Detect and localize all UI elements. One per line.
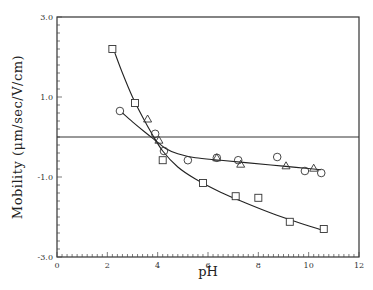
y-tick-label: 1.0 xyxy=(40,93,53,102)
y-tick-label: -1.0 xyxy=(38,173,53,182)
x-tick-label: 12 xyxy=(354,261,364,270)
x-tick-label: 10 xyxy=(304,261,314,270)
square-marker xyxy=(255,194,262,201)
square-marker xyxy=(232,193,239,200)
circle-marker xyxy=(116,107,124,115)
circle-marker xyxy=(273,153,281,161)
x-tick-label: 0 xyxy=(54,261,59,270)
circle-marker xyxy=(160,147,168,155)
y-axis-label: Mobility (μm/sec/V/cm) xyxy=(10,55,25,219)
square-marker xyxy=(286,218,293,225)
triangle-marker xyxy=(310,164,318,171)
fit-curves xyxy=(115,53,321,230)
circle-marker xyxy=(317,169,325,177)
x-axis-label: pH xyxy=(198,264,218,279)
triangle-marker xyxy=(282,162,290,169)
mobility-vs-ph-chart: 024681012-3.0-1.01.03.0 pH Mobility (μm/… xyxy=(0,0,373,290)
y-tick-label: -3.0 xyxy=(38,253,53,262)
x-tick-label: 2 xyxy=(105,261,110,270)
circle-marker xyxy=(184,156,192,164)
squares-fit-curve xyxy=(115,53,321,230)
square-marker xyxy=(320,226,327,233)
tick-labels: 024681012-3.0-1.01.03.0 xyxy=(38,13,365,270)
circles-fit-curve xyxy=(122,113,321,170)
square-marker xyxy=(132,100,139,107)
data-markers xyxy=(109,46,327,233)
square-marker xyxy=(199,180,206,187)
square-marker xyxy=(159,157,166,164)
x-tick-label: 4 xyxy=(155,261,160,270)
x-tick-label: 8 xyxy=(256,261,261,270)
square-marker xyxy=(109,46,116,53)
y-tick-label: 3.0 xyxy=(40,13,53,22)
